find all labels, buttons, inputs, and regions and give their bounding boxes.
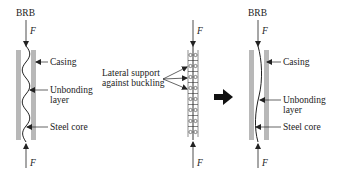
right-casing-label: Casing — [283, 57, 310, 67]
lateral-support-pointer — [163, 67, 187, 79]
lateral-support-pointer — [163, 79, 187, 89]
left-brb-title: BRB — [16, 8, 35, 18]
right-force-bottom-label: F — [261, 158, 268, 168]
middle-force-top-label: F — [196, 26, 203, 36]
brb-diagram: BRB F F Casing Unbonding layer Steel cor… — [0, 0, 341, 178]
middle-force-bottom-label: F — [196, 158, 203, 168]
left-unbonding-label-1: Unbonding — [50, 85, 93, 95]
lateral-support-label-1: Lateral support — [102, 68, 160, 78]
left-steel-core-buckled — [22, 46, 30, 142]
left-casing-label: Casing — [50, 57, 77, 67]
left-unbonding-label-2: layer — [50, 95, 70, 105]
left-force-bottom-label: F — [29, 158, 36, 168]
left-casing-wall — [16, 50, 21, 140]
left-casing-wall — [31, 50, 36, 140]
right-brb: BRB F F Casing Unbonding layer Steel cor… — [248, 8, 326, 168]
right-brb-title: BRB — [248, 8, 267, 18]
transition-arrow-icon — [214, 89, 233, 105]
right-steel-core-restrained — [255, 46, 261, 142]
right-unbonding-label-1: Unbonding — [283, 95, 326, 105]
left-force-top-label: F — [29, 26, 36, 36]
left-brb: BRB F F Casing Unbonding layer Steel cor… — [16, 8, 93, 168]
lateral-support-label-2: against buckling — [102, 78, 165, 88]
right-casing-wall — [249, 50, 254, 140]
left-steel-core-label: Steel core — [50, 122, 88, 132]
right-force-top-label: F — [261, 26, 268, 36]
right-casing-wall — [264, 50, 269, 140]
lateral-support-pointer — [163, 78, 187, 79]
right-unbonding-label-2: layer — [283, 105, 303, 115]
middle-support-model: F F Lateral support against buckling — [102, 20, 203, 168]
right-steel-core-label: Steel core — [283, 122, 321, 132]
